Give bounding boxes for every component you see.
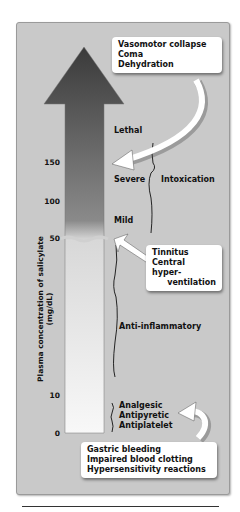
level-mild: Mild	[114, 216, 133, 226]
callout-bottom-line: Hypersensitivity reactions	[87, 465, 211, 475]
divider-rule	[22, 506, 219, 507]
level-anti-inflammatory: Anti-inflammatory	[119, 322, 201, 332]
callout-bottom: Gastric bleeding Impaired blood clotting…	[81, 442, 217, 478]
middle-callout-arrow	[114, 234, 150, 262]
tick-10: 10	[30, 391, 60, 400]
callout-middle: Tinnitus Central hyper- ventilation	[146, 245, 222, 291]
tick-50: 50	[30, 234, 60, 243]
callout-middle-line: ventilation	[152, 278, 216, 288]
y-axis-label: Plasma concentration of salicylate (mg/d…	[36, 224, 54, 394]
level-antipyretic: Antipyretic	[119, 411, 169, 421]
callout-bottom-line: Gastric bleeding	[87, 445, 211, 455]
callout-top-line: Dehydration	[118, 60, 216, 70]
level-severe: Severe	[114, 175, 145, 185]
callout-middle-line: Tinnitus	[152, 248, 216, 258]
anti-inflammatory-brace	[114, 245, 118, 377]
callout-top-line: Vasomotor collapse	[118, 40, 216, 50]
callout-bottom-line: Impaired blood clotting	[87, 455, 211, 465]
level-lethal: Lethal	[114, 126, 142, 136]
tick-0: 0	[30, 429, 60, 438]
level-antiplatelet: Antiplatelet	[119, 421, 173, 431]
level-analgesic: Analgesic	[119, 401, 162, 411]
tick-150: 150	[30, 158, 60, 167]
level-intoxication: Intoxication	[161, 175, 215, 185]
analgesic-brace	[111, 403, 114, 432]
callout-middle-line: Central hyper-	[152, 258, 216, 278]
callout-top-line: Coma	[118, 50, 216, 60]
callout-top: Vasomotor collapse Coma Dehydration	[112, 37, 222, 73]
tick-100: 100	[30, 197, 60, 206]
